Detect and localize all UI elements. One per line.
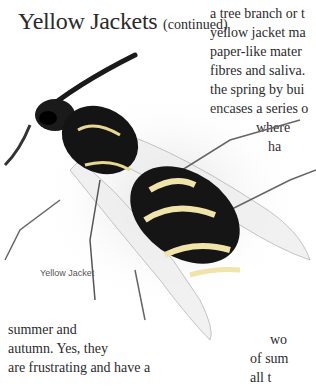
- illustration-caption: Yellow Jacket: [40, 268, 94, 278]
- text-line: are frustrating and have a: [8, 358, 208, 377]
- bottom-left-text: summer and autumn. Yes, they are frustra…: [8, 320, 208, 377]
- text-line: summer and: [8, 320, 208, 339]
- bottom-right-text: wo of sum all t: [250, 330, 316, 386]
- text-line: of sum: [250, 349, 316, 368]
- text-line: a tree branch or t: [210, 4, 316, 23]
- yellow-jacket-illustration: [0, 30, 316, 340]
- text-line: autumn. Yes, they: [8, 339, 208, 358]
- text-line: all t: [250, 368, 316, 386]
- text-line: wo: [250, 330, 316, 349]
